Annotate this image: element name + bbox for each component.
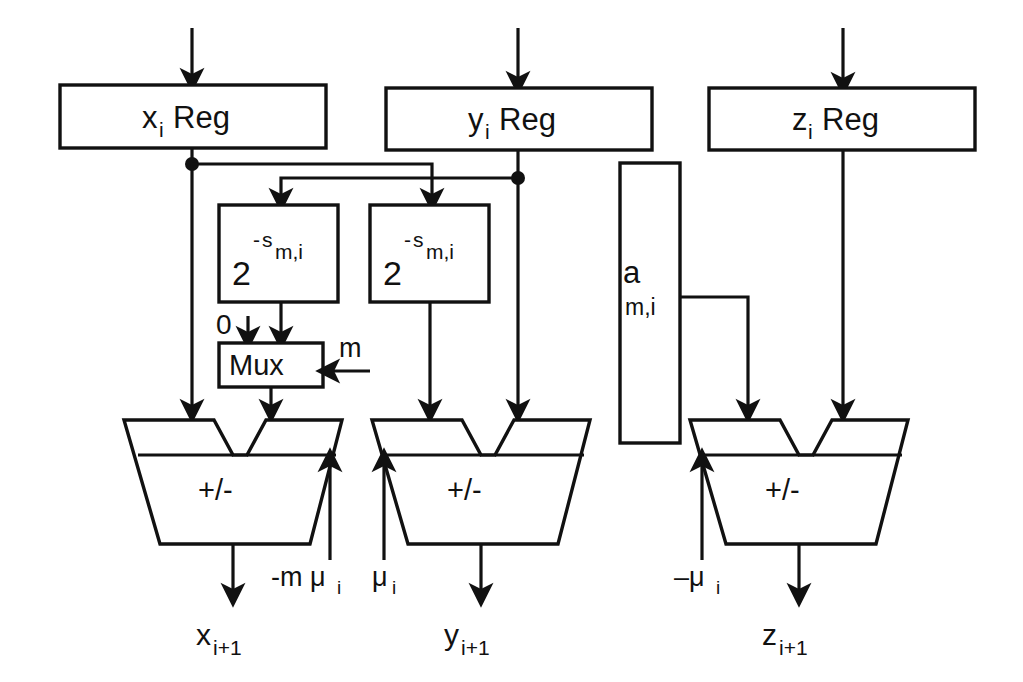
output-y-sub: i+1 (461, 636, 490, 659)
shifter-right-base: 2 (383, 254, 402, 292)
register-input-arrows (192, 28, 843, 84)
adder-z-label: +/- (765, 474, 800, 506)
cordic-datapath-diagram: x i Reg y i Reg z i Reg 2 - s (0, 0, 1023, 682)
shifter-left[interactable]: 2 - s m,i (219, 205, 338, 302)
adder-x-control-sub: i (337, 577, 341, 598)
x-register[interactable]: x i Reg (60, 85, 326, 148)
output-labels: x i+1 y i+1 z i+1 (196, 618, 808, 659)
left-shifter-to-mux: 0 (216, 302, 281, 340)
adder-x-control-label: -m μ (271, 562, 326, 592)
x-to-right-shifter-wire (192, 164, 432, 200)
y-register-label-suffix: Reg (499, 102, 556, 137)
adder-z-control-label: –μ (674, 562, 705, 592)
adder-y-control-label: μ (372, 562, 388, 592)
mux-select-label: m (339, 333, 362, 363)
output-x-base: x (196, 618, 211, 651)
rom-label-sub: m,i (625, 294, 656, 320)
shifter-right-exp-sub: m,i (426, 240, 454, 263)
shifter-left-exp-sub: m,i (275, 240, 303, 263)
rom-output-wire (680, 297, 748, 411)
z-register-label-suffix: Reg (822, 102, 879, 137)
x-register-label-sub: i (159, 118, 164, 141)
x-register-label-suffix: Reg (173, 100, 230, 135)
adder-y-label: +/- (447, 474, 482, 506)
shifter-left-base: 2 (232, 254, 251, 292)
mux-zero-label: 0 (216, 309, 232, 340)
y-to-left-shifter-wire (281, 178, 518, 200)
y-register-label-sub: i (485, 120, 490, 143)
output-z-base: z (762, 618, 777, 651)
adder-x-body[interactable] (124, 420, 342, 544)
shifter-right[interactable]: 2 - s m,i (370, 205, 489, 302)
output-z-sub: i+1 (779, 636, 808, 659)
output-x-sub: i+1 (213, 636, 242, 659)
x-register-label-base: x (142, 100, 158, 135)
y-register-label-base: y (468, 102, 484, 137)
adder-z-control-sub: i (716, 577, 720, 598)
shifter-right-exp-base: s (413, 228, 424, 251)
shifter-right-exp-sign: - (404, 228, 411, 251)
y-register[interactable]: y i Reg (386, 88, 652, 150)
z-register-label-base: z (792, 102, 808, 137)
adder-x[interactable]: +/- -m μ i (124, 420, 342, 598)
adder-y[interactable]: +/- μ i (372, 420, 590, 598)
cordic-datapath-canvas: x i Reg y i Reg z i Reg 2 - s (0, 0, 1023, 682)
output-y-base: y (444, 618, 459, 651)
z-register-label-sub: i (808, 120, 813, 143)
shifter-left-exp-sign: - (253, 228, 260, 251)
adder-y-control-sub: i (392, 577, 396, 598)
rom-label-base: a (623, 255, 641, 290)
adder-z[interactable]: +/- –μ i (674, 420, 908, 598)
mux-label: Mux (229, 349, 284, 381)
z-register[interactable]: z i Reg (709, 88, 975, 150)
shifter-left-exp-base: s (262, 228, 273, 251)
rom-angle-table[interactable]: a m,i (620, 163, 748, 443)
mux[interactable]: Mux m (219, 333, 370, 411)
adder-x-label: +/- (198, 474, 233, 506)
